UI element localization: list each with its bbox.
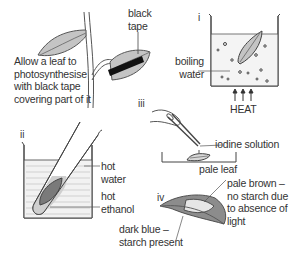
step-ii-label: ii	[20, 129, 24, 140]
step-iv-label: iv	[157, 192, 164, 203]
pale-leaf-label: pale leaf	[199, 163, 237, 176]
heat-arrows-icon	[233, 89, 253, 101]
black-tape-label: black tape	[128, 7, 152, 32]
step-iii-label: iii	[138, 98, 145, 109]
boiling-water-label: boiling water	[175, 55, 204, 80]
dark-blue-label: dark blue – starch present	[119, 223, 183, 248]
iodine-solution-label: iodine solution	[215, 138, 279, 151]
dish-pale-leaf	[162, 152, 236, 162]
dropper-hand	[150, 110, 222, 153]
step-i-label: i	[198, 12, 200, 23]
intro-text: Allow a leaf to photosynthesise with bla…	[14, 55, 91, 105]
beaker-ii	[22, 122, 102, 218]
beaker-i	[198, 14, 280, 86]
hot-ethanol-label: hot ethanol	[101, 190, 134, 215]
hot-water-label: hot water	[101, 160, 126, 185]
heat-label: HEAT	[230, 103, 256, 116]
pale-brown-label: pale brown – no starch due to absence of…	[227, 177, 288, 227]
